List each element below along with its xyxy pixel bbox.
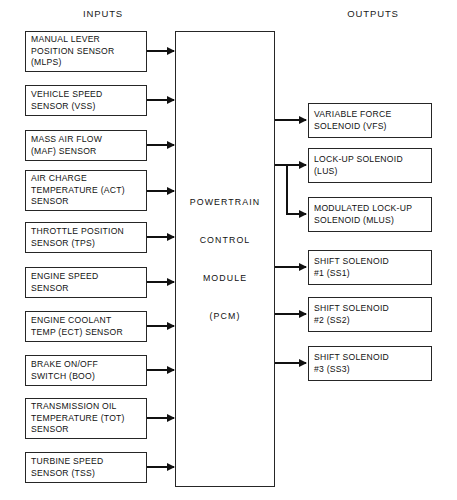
connector-tps-to-pcm [147, 236, 174, 238]
input-line: TRANSMISSION OIL [31, 401, 146, 413]
input-box-tss: TURBINE SPEED SENSOR (TSS) [25, 452, 147, 483]
connector-tot-to-pcm [147, 417, 174, 419]
connector-engine-speed-to-pcm [147, 281, 174, 283]
input-line: AIR CHARGE [31, 173, 146, 185]
input-line: SENSOR [31, 424, 146, 436]
powertrain-control-module-box: POWERTRAIN CONTROL MODULE (PCM) [175, 31, 275, 487]
input-line: (MAF) SENSOR [31, 146, 146, 158]
input-line: SENSOR [31, 283, 146, 295]
connector-pcm-to-ss2 [275, 313, 306, 315]
output-line: SOLENOID (MLUS) [314, 215, 431, 227]
connector-pcm-to-vfs [275, 119, 306, 121]
connector-pcm-to-mlus [286, 213, 306, 215]
output-box-vfs: VARIABLE FORCE SOLENOID (VFS) [308, 103, 432, 138]
output-box-ss2: SHIFT SOLENOID #2 (SS2) [308, 297, 432, 332]
input-line: ENGINE COOLANT [31, 315, 146, 327]
input-line: TURBINE SPEED [31, 456, 146, 468]
output-line: (LUS) [314, 166, 431, 178]
input-line: SENSOR [31, 196, 146, 208]
input-line: SENSOR (TPS) [31, 238, 146, 250]
output-line: SHIFT SOLENOID [314, 352, 431, 364]
connector-tss-to-pcm [147, 466, 174, 468]
connector-ect-to-pcm [147, 325, 174, 327]
pcm-line: (PCM) [210, 311, 241, 321]
input-line: (MLPS) [31, 57, 146, 69]
input-line: MASS AIR FLOW [31, 134, 146, 146]
output-line: MODULATED LOCK-UP [314, 203, 431, 215]
output-box-lus: LOCK-UP SOLENOID (LUS) [308, 148, 432, 183]
output-box-ss1: SHIFT SOLENOID #1 (SS1) [308, 250, 432, 285]
connector-branch-lus-mlus [286, 164, 288, 215]
output-line: VARIABLE FORCE [314, 109, 431, 121]
output-box-ss3: SHIFT SOLENOID #3 (SS3) [308, 346, 432, 381]
input-box-tot: TRANSMISSION OIL TEMPERATURE (TOT) SENSO… [25, 398, 147, 439]
input-box-boo: BRAKE ON/OFF SWITCH (BOO) [25, 355, 147, 386]
input-box-ect: ENGINE COOLANT TEMP (ECT) SENSOR [25, 311, 147, 342]
input-box-mlps: MANUAL LEVER POSITION SENSOR (MLPS) [25, 31, 147, 72]
input-line: SENSOR (VSS) [31, 101, 146, 113]
connector-vss-to-pcm [147, 99, 174, 101]
connector-mlps-to-pcm [147, 50, 174, 52]
output-line: SHIFT SOLENOID [314, 303, 431, 315]
output-box-mlus: MODULATED LOCK-UP SOLENOID (MLUS) [308, 197, 432, 232]
pcm-line: MODULE [203, 273, 247, 283]
connector-act-to-pcm [147, 190, 174, 192]
output-line: #2 (SS2) [314, 315, 431, 327]
pcm-block-diagram: INPUTS OUTPUTS MANUAL LEVER POSITION SEN… [0, 0, 457, 500]
output-line: #1 (SS1) [314, 268, 431, 280]
input-line: MANUAL LEVER [31, 34, 146, 46]
input-box-tps: THROTTLE POSITION SENSOR (TPS) [25, 222, 147, 253]
pcm-line: CONTROL [200, 235, 251, 245]
connector-pcm-to-ss1 [275, 266, 306, 268]
input-box-maf: MASS AIR FLOW (MAF) SENSOR [25, 130, 147, 161]
input-line: TEMPERATURE (ACT) [31, 185, 146, 197]
output-line: #3 (SS3) [314, 364, 431, 376]
input-line: SWITCH (BOO) [31, 371, 146, 383]
output-line: SHIFT SOLENOID [314, 256, 431, 268]
inputs-column-heading: INPUTS [48, 8, 158, 19]
connector-boo-to-pcm [147, 369, 174, 371]
connector-pcm-to-lus [275, 164, 306, 166]
input-box-engine-speed: ENGINE SPEED SENSOR [25, 267, 147, 298]
input-line: THROTTLE POSITION [31, 226, 146, 238]
pcm-line: POWERTRAIN [190, 197, 260, 207]
input-line: ENGINE SPEED [31, 271, 146, 283]
input-line: VEHICLE SPEED [31, 89, 146, 101]
input-line: SENSOR (TSS) [31, 468, 146, 480]
input-line: TEMP (ECT) SENSOR [31, 327, 146, 339]
input-line: TEMPERATURE (TOT) [31, 413, 146, 425]
output-line: LOCK-UP SOLENOID [314, 154, 431, 166]
outputs-column-heading: OUTPUTS [318, 8, 428, 19]
input-line: BRAKE ON/OFF [31, 359, 146, 371]
output-line: SOLENOID (VFS) [314, 121, 431, 133]
connector-pcm-to-ss3 [275, 362, 306, 364]
connector-maf-to-pcm [147, 144, 174, 146]
input-box-act: AIR CHARGE TEMPERATURE (ACT) SENSOR [25, 170, 147, 211]
input-box-vss: VEHICLE SPEED SENSOR (VSS) [25, 85, 147, 116]
input-line: POSITION SENSOR [31, 46, 146, 58]
